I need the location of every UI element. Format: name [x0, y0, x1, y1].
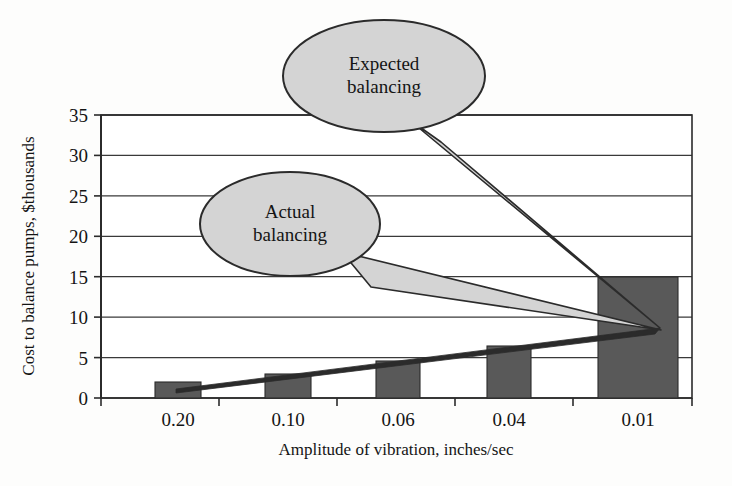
y-tick-label: 35: [69, 105, 88, 126]
y-tick-label: 5: [79, 348, 89, 369]
y-tick-label: 15: [69, 267, 88, 288]
x-tick-label: 0.01: [621, 409, 654, 430]
x-tick-labels: 0.20 0.10 0.06 0.04 0.01: [161, 409, 654, 430]
x-axis-title: Amplitude of vibration, inches/sec: [278, 440, 514, 459]
x-axis-ticks: [101, 398, 692, 406]
y-tick-label: 25: [69, 186, 88, 207]
chart-figure: 35 30 25 20 15 10 5 0 Cost to balance pu…: [0, 0, 732, 486]
x-tick-label: 0.20: [161, 409, 194, 430]
actual-balancing-label-line2: balancing: [253, 224, 327, 245]
expected-balancing-callout[interactable]: Expected balancing: [283, 20, 485, 132]
y-axis: [94, 115, 101, 398]
expected-balancing-label-line2: balancing: [347, 76, 421, 97]
actual-balancing-callout[interactable]: Actual balancing: [200, 172, 380, 276]
expected-balancing-label-line1: Expected: [349, 53, 420, 74]
x-tick-label: 0.06: [381, 409, 414, 430]
y-tick-labels: 35 30 25 20 15 10 5 0: [69, 105, 88, 409]
bar-chart-canvas: 35 30 25 20 15 10 5 0 Cost to balance pu…: [0, 0, 732, 486]
x-tick-label: 0.04: [492, 409, 526, 430]
y-tick-label: 0: [79, 388, 89, 409]
y-tick-label: 30: [69, 145, 88, 166]
x-tick-label: 0.10: [271, 409, 304, 430]
y-tick-label: 20: [69, 226, 88, 247]
y-tick-label: 10: [69, 307, 88, 328]
y-axis-title: Cost to balance pumps, $thousands: [19, 136, 38, 375]
actual-balancing-label-line1: Actual: [265, 201, 316, 222]
